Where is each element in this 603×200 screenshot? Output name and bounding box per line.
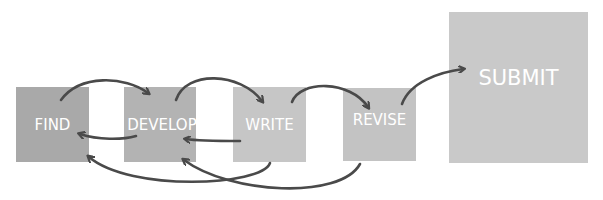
arrow-find-to-develop [61, 80, 148, 100]
arrows-layer [0, 0, 603, 200]
arrow-write-to-revise [292, 86, 368, 107]
arrow-revise-to-submit [402, 69, 463, 104]
arrow-develop-to-write [176, 78, 262, 101]
arrow-write-to-find [89, 157, 270, 182]
arrow-write-to-develop [186, 139, 240, 141]
arrow-revise-to-develop [184, 160, 360, 188]
arrow-develop-to-find [80, 134, 136, 139]
